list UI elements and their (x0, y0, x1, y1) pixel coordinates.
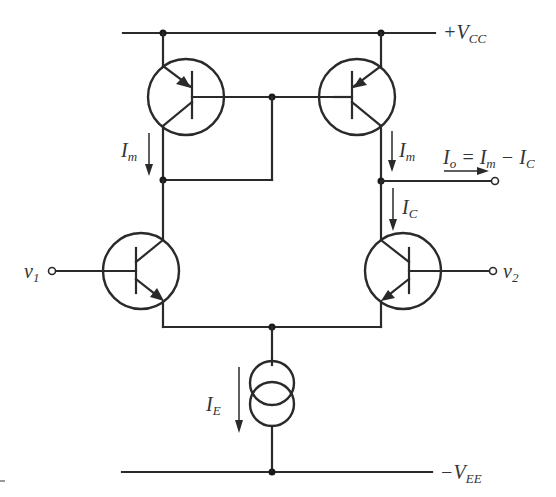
vee-label: −VEE (440, 462, 482, 485)
ie-arrow-icon (235, 367, 243, 433)
im-left-label: Im (121, 140, 137, 163)
io-equation-label: Io = Im − IC (443, 147, 535, 170)
v1-input-terminal[interactable] (49, 268, 56, 275)
circuit-diagram: +VCC −VEE v1 v2 Im Im IC IE Io = Im − IC (0, 0, 556, 497)
q3-pnp-transistor (148, 33, 224, 180)
output-terminal[interactable] (492, 178, 499, 185)
im-left-arrow-icon (145, 133, 153, 176)
ic-arrow-icon (389, 188, 397, 231)
im-right-label: Im (399, 140, 415, 163)
junction-dot (269, 469, 276, 476)
vcc-label: +VCC (443, 22, 486, 45)
tail-current-source (250, 327, 294, 472)
q4-pnp-transistor (319, 33, 395, 180)
v1-label: v1 (24, 261, 39, 284)
circuit-schematic (0, 0, 556, 497)
v2-input-terminal[interactable] (490, 268, 497, 275)
v2-label: v2 (503, 261, 518, 284)
ic-label: IC (402, 197, 417, 220)
q2-npn-transistor (365, 233, 490, 327)
im-right-arrow-icon (388, 131, 396, 172)
q1-npn-transistor (55, 233, 179, 327)
ie-label: IE (206, 394, 221, 417)
